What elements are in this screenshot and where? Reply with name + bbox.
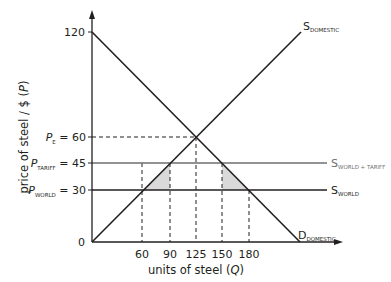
y-axis-title: price of steel / $ (P) (17, 81, 31, 194)
tariff-chart: 120 0 PE = 60 PTARIFF = 45 PWORLD = 30 6… (0, 0, 391, 282)
d-domestic-label: DDOMESTIC (298, 229, 336, 242)
y-tick-pworld: PWORLD = 30 (28, 184, 86, 198)
x-tick-60: 60 (135, 248, 149, 261)
y-axis-arrow-icon (89, 10, 95, 19)
y-tick-pe: PE = 60 (46, 131, 86, 145)
y-tick-ptariff: PTARIFF = 45 (31, 157, 86, 171)
x-axis-title: units of steel (Q) (148, 263, 244, 277)
s-world-label: SWORLD (331, 184, 359, 197)
x-tick-180: 180 (239, 248, 260, 261)
x-tick-150: 150 (212, 248, 233, 261)
x-tick-90: 90 (163, 248, 177, 261)
s-world-tariff-label: SWORLD + TARIFF (331, 157, 385, 170)
y-tick-120: 120 (64, 26, 85, 39)
y-tick-0: 0 (78, 236, 85, 249)
x-tick-125: 125 (186, 248, 207, 261)
s-domestic-label: SDOMESTIC (303, 20, 339, 33)
